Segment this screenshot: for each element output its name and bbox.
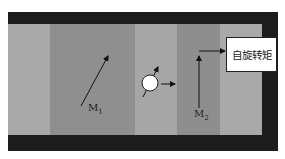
m1-label: M1 (88, 102, 103, 116)
m1-label-main: M (88, 102, 98, 113)
m1-magnetization-arrow (81, 56, 108, 106)
m2-label-main: M (194, 108, 204, 119)
spin-torque-label-box: 自旋转矩 (226, 37, 277, 72)
arrows-overlay (0, 0, 285, 159)
spin-torque-label: 自旋转矩 (232, 47, 272, 62)
electron-icon (142, 75, 158, 91)
m1-label-sub: 1 (98, 108, 102, 116)
m2-label: M2 (194, 108, 209, 122)
m2-label-sub: 2 (204, 114, 208, 122)
